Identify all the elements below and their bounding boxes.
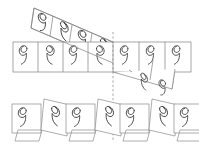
cell-group-3: [95, 99, 150, 141]
cell-group-1: [12, 104, 42, 141]
horizontal-band: [13, 42, 191, 72]
cell-square: [66, 104, 95, 133]
cell-group-4: [149, 99, 199, 141]
cell-square: [120, 104, 149, 133]
figure-canvas: [0, 0, 199, 146]
decomposed-cells-row: [12, 99, 199, 141]
cell-square: [12, 104, 41, 133]
cell-group-2: [41, 99, 96, 141]
cell-parallelogram: [149, 99, 178, 136]
geometric-figure: [0, 0, 199, 146]
